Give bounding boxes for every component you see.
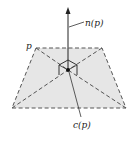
- polygon-normal-diagram: n(p) p c(p): [0, 0, 136, 145]
- polygon-face: [12, 48, 126, 108]
- normal-label: n(p): [85, 18, 104, 28]
- centroid-point: [66, 68, 70, 72]
- normal-leader: [69, 22, 84, 27]
- centroid-label: c(p): [73, 120, 91, 130]
- arrowhead-icon: [66, 7, 71, 14]
- polygon-label: p: [26, 41, 32, 51]
